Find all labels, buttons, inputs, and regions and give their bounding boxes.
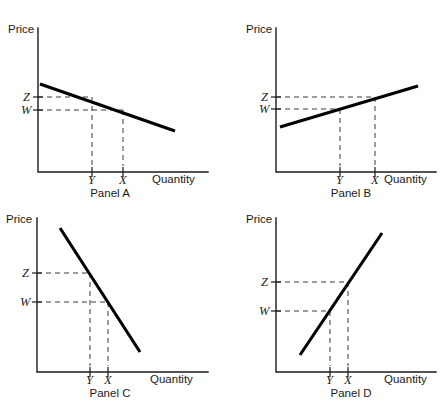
panel-b-quantity-label: Quantity	[384, 173, 427, 185]
panel-a-label-w: W	[21, 103, 33, 117]
panel-d-quantity-label: Quantity	[384, 373, 427, 385]
panel-c-label-x: X	[103, 373, 113, 387]
four-panel-price-quantity-figure: Price Quantity Z W Y X Panel A Price Qua…	[0, 0, 442, 402]
panel-c-label-z: Z	[22, 266, 30, 280]
panel-b-axes	[276, 28, 436, 172]
panel-a-caption: Panel A	[90, 187, 130, 199]
panel-c-axes	[37, 218, 208, 372]
panel-c-curve	[60, 228, 140, 352]
panel-b-caption: Panel B	[331, 187, 372, 199]
panel-b-label-y: Y	[336, 173, 345, 187]
panel-b-label-x: X	[370, 173, 380, 187]
panel-d: Price Quantity Z W Y X Panel D	[221, 200, 442, 401]
panel-c-quantity-label: Quantity	[150, 373, 193, 385]
panel-a-curve	[40, 84, 175, 131]
panel-d-caption: Panel D	[331, 387, 372, 399]
panel-a-label-z: Z	[23, 90, 31, 104]
panel-d-label-w: W	[259, 304, 271, 318]
panel-c-label-w: W	[20, 295, 32, 309]
panel-d-label-y: Y	[326, 373, 335, 387]
panel-d-curve	[300, 233, 382, 355]
panel-a-label-y: Y	[88, 173, 97, 187]
panel-b: Price Quantity Z W Y X Panel B	[221, 0, 442, 201]
panel-a-quantity-label: Quantity	[152, 173, 195, 185]
panel-d-label-x: X	[343, 373, 353, 387]
panel-a: Price Quantity Z W Y X Panel A	[0, 0, 221, 201]
panel-b-label-w: W	[259, 102, 271, 116]
panel-a-price-label: Price	[8, 23, 34, 35]
panel-c-price-label: Price	[6, 213, 32, 225]
panel-c: Price Quantity Z W Y X Panel C	[0, 200, 221, 401]
panel-b-price-label: Price	[246, 23, 272, 35]
panel-b-curve	[280, 86, 418, 127]
panel-d-price-label: Price	[246, 213, 272, 225]
panel-d-axes	[276, 218, 436, 372]
panel-c-label-y: Y	[86, 373, 95, 387]
panel-a-label-x: X	[118, 173, 128, 187]
panel-d-label-z: Z	[261, 275, 269, 289]
panel-c-caption: Panel C	[90, 387, 131, 399]
